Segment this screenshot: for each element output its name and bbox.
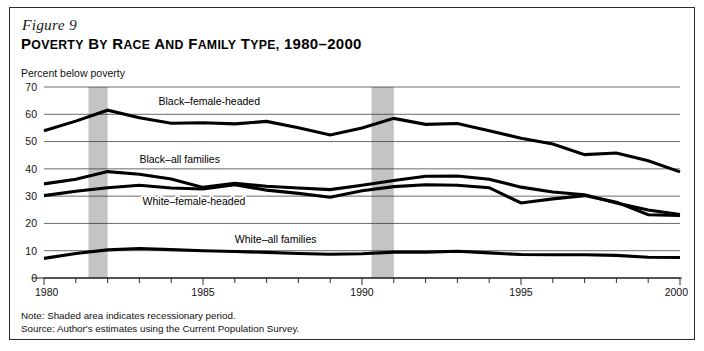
page-title: POVERTY BY RACE AND FAMILY TYPE, 1980–20… <box>21 35 362 52</box>
figure-container: Figure 9 POVERTY BY RACE AND FAMILY TYPE… <box>0 0 704 351</box>
y-axis-caption: Percent below poverty <box>21 67 125 79</box>
figure-number: Figure 9 <box>22 16 77 34</box>
figure-title-text: POVERTY BY RACE AND FAMILY TYPE, 1980–20… <box>21 35 362 52</box>
figure-frame <box>9 7 695 340</box>
figure-footnotes: Note: Shaded area indicates recessionary… <box>21 310 299 335</box>
footnote-note: Note: Shaded area indicates recessionary… <box>21 310 299 323</box>
footnote-source: Source: Author's estimates using the Cur… <box>21 323 299 336</box>
